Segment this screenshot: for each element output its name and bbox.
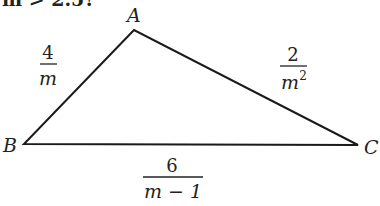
side-ac-exponent: 2 <box>299 69 307 83</box>
side-ac-denominator: m <box>281 71 299 93</box>
side-bc-length: 6 m − 1 <box>143 155 203 202</box>
side-ab-numerator: 4 <box>42 42 53 63</box>
vertex-label-b: B <box>2 134 17 156</box>
side-ac-numerator: 2 <box>287 44 298 65</box>
side-ab-denominator: m <box>39 67 57 89</box>
side-ab-length: 4 m <box>39 42 57 89</box>
triangle-diagram: A B C 4 m 2 m 2 6 m − 1 <box>0 0 380 206</box>
vertex-label-c: C <box>364 136 379 158</box>
side-bc-denominator: m − 1 <box>144 180 202 202</box>
triangle-figure: m > 2.5? A B C 4 m 2 m 2 6 m − 1 <box>0 0 380 206</box>
vertex-label-a: A <box>125 4 141 26</box>
triangle-abc <box>24 30 358 145</box>
side-bc-numerator: 6 <box>166 155 177 176</box>
side-ac-length: 2 m 2 <box>280 44 307 93</box>
